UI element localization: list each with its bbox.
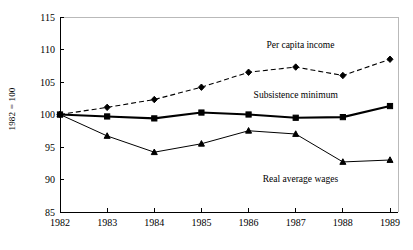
y-tick-label: 105: [40, 77, 55, 88]
data-point-marker: [104, 104, 110, 110]
line-chart: 8590951001051101151982198319841985198619…: [0, 0, 413, 250]
data-point-marker: [198, 84, 204, 90]
data-point-marker: [387, 103, 392, 108]
y-tick-label: 110: [40, 44, 55, 55]
data-point-marker: [246, 128, 252, 134]
data-point-marker: [199, 110, 204, 115]
x-tick-label: 1985: [191, 217, 211, 228]
data-point-marker: [104, 133, 110, 139]
data-point-marker: [293, 64, 299, 70]
series-annotation: Real average wages: [263, 174, 339, 184]
data-point-marker: [340, 72, 346, 78]
chart-page: 1982 = 100 85909510010511011519821983198…: [0, 0, 413, 250]
x-tick-label: 1989: [380, 217, 400, 228]
data-point-marker: [387, 56, 393, 62]
data-point-marker: [246, 112, 251, 117]
data-point-marker: [151, 96, 157, 102]
data-point-marker: [293, 115, 298, 120]
series-annotation: Per capita income: [266, 40, 334, 50]
x-tick-label: 1988: [333, 217, 353, 228]
series-annotation: Subsistence minimum: [254, 90, 339, 100]
y-tick-label: 100: [40, 109, 55, 120]
x-tick-label: 1982: [50, 217, 70, 228]
x-tick-label: 1983: [97, 217, 117, 228]
data-point-marker: [105, 114, 110, 119]
data-point-marker: [152, 116, 157, 121]
data-point-marker: [340, 115, 345, 120]
series-1: [57, 56, 393, 118]
y-tick-label: 95: [45, 142, 55, 153]
y-tick-label: 90: [45, 174, 55, 185]
data-point-marker: [246, 69, 252, 75]
x-tick-label: 1984: [144, 217, 164, 228]
y-tick-label: 115: [40, 12, 55, 23]
x-tick-label: 1987: [286, 217, 306, 228]
x-tick-label: 1986: [239, 217, 259, 228]
y-tick-label: 85: [45, 207, 55, 218]
